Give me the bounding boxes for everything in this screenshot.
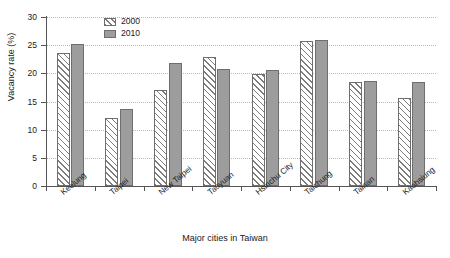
- bar-chart-figure: Vacancy rate (%) 051015202530 KeelungTai…: [0, 0, 450, 258]
- x-tick-mark: [46, 186, 47, 191]
- legend-label-2010: 2010: [121, 28, 140, 39]
- y-tick-label: 30: [0, 12, 37, 22]
- bar-taipei-2000: [105, 118, 118, 186]
- x-tick-mark: [241, 186, 242, 191]
- bar-new-taipei-2010: [169, 63, 182, 186]
- bar-taichung-2000: [300, 41, 313, 186]
- legend-item-2010: 2010: [104, 28, 140, 39]
- x-axis-title: Major cities in Taiwan: [0, 233, 450, 243]
- bar-taoyuan-2000: [203, 57, 216, 186]
- y-tick-label: 0: [0, 181, 37, 191]
- legend: 2000 2010: [104, 16, 140, 40]
- y-tick-label: 20: [0, 68, 37, 78]
- x-tick-mark: [144, 186, 145, 191]
- bar-taipei-2010: [120, 109, 133, 186]
- x-tick-mark: [95, 186, 96, 191]
- legend-label-2000: 2000: [121, 16, 140, 27]
- x-tick-mark: [387, 186, 388, 191]
- y-tick-label: 25: [0, 40, 37, 50]
- bar-kaohsiung-2000: [398, 98, 411, 186]
- bar-keelung-2000: [57, 53, 70, 187]
- bar-tainan-2010: [364, 81, 377, 186]
- y-tick-label: 10: [0, 125, 37, 135]
- bar-hsinchu-city-2010: [266, 70, 279, 186]
- bar-hsinchu-city-2000: [252, 74, 265, 186]
- bar-keelung-2010: [71, 44, 84, 186]
- x-tick-mark: [339, 186, 340, 191]
- x-tick-mark: [290, 186, 291, 191]
- bar-taichung-2010: [315, 40, 328, 186]
- y-tick-label: 5: [0, 153, 37, 163]
- legend-swatch-2000-icon: [104, 18, 116, 26]
- bar-tainan-2000: [349, 82, 362, 186]
- x-tick-mark: [192, 186, 193, 191]
- legend-swatch-2010-icon: [104, 30, 116, 38]
- plot-area: [46, 17, 436, 186]
- x-tick-mark: [436, 186, 437, 191]
- bar-new-taipei-2000: [154, 90, 167, 186]
- bar-taoyuan-2010: [217, 69, 230, 186]
- y-tick-label: 15: [0, 97, 37, 107]
- legend-item-2000: 2000: [104, 16, 140, 27]
